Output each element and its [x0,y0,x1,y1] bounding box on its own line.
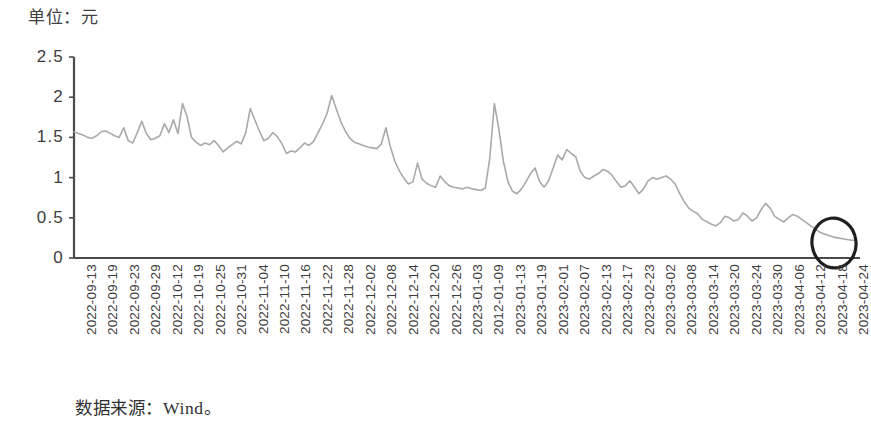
y-axis-tick-label: 0.5 [6,209,64,226]
y-axis-tick-label: 2 [6,88,64,105]
source-note: 数据来源：Wind。 [75,396,221,420]
y-axis-tick-label: 2.5 [6,48,64,65]
highlight-circle-annotation [809,215,860,271]
chart-axes [69,57,860,258]
y-axis-tick-label: 1.5 [6,128,64,145]
highlight-circle [809,215,860,271]
line-chart-plot [0,0,868,290]
price-line-series [74,96,856,241]
y-axis-tick-label: 0 [6,249,64,266]
y-axis-tick-label: 1 [6,169,64,186]
